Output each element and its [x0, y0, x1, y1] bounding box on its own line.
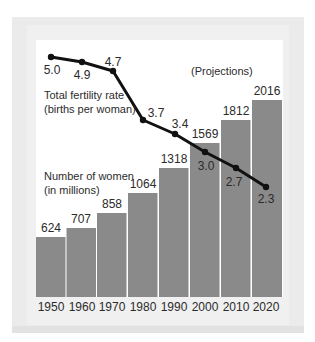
bar-1990 [159, 168, 189, 297]
point-1960 [79, 59, 85, 65]
bar-1950 [36, 237, 66, 297]
point-1950 [48, 54, 54, 60]
point-2000 [202, 149, 208, 155]
bar-value-1970: 858 [102, 197, 122, 211]
x-axis-labels: 1950 1960 1970 1980 1990 2000 2010 2020 [38, 300, 280, 314]
line-value-2020: 2.3 [258, 192, 275, 206]
line-value-2010: 2.7 [226, 175, 243, 189]
line-value-1970: 4.7 [105, 55, 122, 69]
point-1980 [140, 117, 146, 123]
bar-series-label-1: Number of women [44, 170, 134, 182]
year-2010: 2010 [223, 300, 250, 314]
year-1950: 1950 [38, 300, 65, 314]
bar-2010 [221, 120, 251, 297]
line-series-label-2: (births per woman) [44, 103, 136, 115]
bar-value-2020: 2016 [254, 84, 281, 98]
line-value-1950: 5.0 [44, 63, 61, 77]
line-value-1990: 3.4 [172, 117, 189, 131]
line-value-1960: 4.9 [74, 68, 91, 82]
projections-label: (Projections) [191, 65, 253, 77]
bar-value-1950: 624 [41, 221, 61, 235]
year-1970: 1970 [99, 300, 126, 314]
bar-1980 [128, 193, 158, 297]
year-1990: 1990 [161, 300, 188, 314]
bar-1970 [97, 213, 127, 297]
line-value-2000: 3.0 [198, 159, 215, 173]
bar-value-2000: 1569 [192, 127, 219, 141]
bar-value-1990: 1318 [161, 152, 188, 166]
bar-value-1960: 707 [71, 212, 91, 226]
year-1960: 1960 [69, 300, 96, 314]
line-series-label-1: Total fertility rate [44, 89, 124, 101]
bars [36, 100, 282, 297]
year-2000: 2000 [192, 300, 219, 314]
year-1980: 1980 [130, 300, 157, 314]
point-2020 [263, 184, 269, 190]
chart-svg: 624 707 858 1064 1318 1569 1812 2016 5.0… [0, 0, 315, 342]
point-2010 [233, 165, 239, 171]
year-2020: 2020 [253, 300, 280, 314]
bar-series-label-2: (in millions) [44, 184, 100, 196]
bar-1960 [67, 228, 97, 297]
line-value-1980: 3.7 [148, 106, 165, 120]
bar-value-2010: 1812 [223, 104, 250, 118]
point-1990 [172, 131, 178, 137]
